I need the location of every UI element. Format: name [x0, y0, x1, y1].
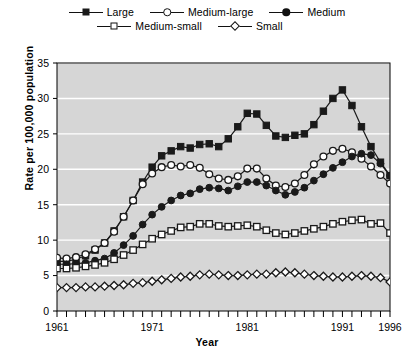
plot-background	[57, 63, 390, 311]
data-point	[282, 231, 288, 237]
data-point	[225, 223, 231, 229]
data-point	[368, 163, 375, 170]
data-point	[92, 262, 98, 268]
data-point	[291, 189, 298, 196]
data-point	[111, 249, 118, 256]
data-point	[139, 181, 146, 188]
data-point	[330, 221, 336, 227]
data-point	[120, 242, 127, 249]
data-point	[177, 163, 184, 170]
data-point	[387, 230, 393, 236]
data-point	[215, 185, 222, 192]
data-point	[254, 223, 260, 229]
data-point	[282, 191, 289, 198]
y-tick-label: 5	[43, 269, 49, 281]
data-point	[206, 221, 212, 227]
data-point	[73, 254, 80, 261]
data-point	[130, 197, 137, 204]
chart-figure: Large Medium-large Medium Medium-smal	[0, 0, 414, 359]
data-point	[273, 133, 279, 139]
data-point	[339, 145, 346, 152]
data-point	[263, 182, 270, 189]
data-point	[377, 220, 383, 226]
data-point	[358, 216, 364, 222]
x-tick-label: 1961	[45, 321, 69, 333]
data-point	[158, 164, 165, 171]
data-point	[368, 152, 375, 159]
data-point	[139, 221, 146, 228]
data-point	[206, 171, 213, 178]
data-point	[82, 263, 88, 269]
data-point	[177, 192, 184, 199]
data-point	[196, 186, 203, 193]
data-point	[301, 131, 307, 137]
data-point	[111, 256, 117, 262]
data-point	[130, 247, 136, 253]
data-point	[311, 226, 317, 232]
data-point	[339, 219, 345, 225]
data-point	[225, 187, 232, 194]
data-point	[244, 179, 251, 186]
data-point	[120, 252, 126, 258]
data-point	[187, 223, 193, 229]
data-point	[292, 132, 298, 138]
data-point	[187, 190, 194, 197]
data-point	[158, 231, 164, 237]
data-point	[244, 165, 251, 172]
data-point	[368, 221, 374, 227]
data-point	[206, 184, 213, 191]
data-point	[301, 184, 308, 191]
data-point	[206, 141, 212, 147]
data-point	[225, 177, 232, 184]
data-point	[292, 230, 298, 236]
data-point	[158, 153, 164, 159]
data-point	[101, 240, 108, 247]
data-point	[196, 164, 203, 171]
data-point	[149, 236, 155, 242]
data-point	[168, 228, 174, 234]
data-point	[197, 141, 203, 147]
data-point	[320, 171, 327, 178]
data-point	[149, 170, 156, 177]
data-point	[301, 172, 308, 179]
data-point	[387, 172, 394, 179]
data-point	[253, 165, 260, 172]
data-point	[320, 223, 326, 229]
data-point	[177, 224, 183, 230]
data-point	[254, 111, 260, 117]
data-point	[168, 197, 175, 204]
data-point	[82, 251, 89, 258]
data-point	[282, 134, 288, 140]
data-point	[130, 232, 137, 239]
data-point	[187, 145, 193, 151]
data-point	[272, 187, 279, 194]
data-point	[215, 175, 222, 182]
data-point	[339, 87, 345, 93]
data-point	[168, 148, 174, 154]
line-chart-svg: 0510152025303519611971198119911996	[0, 0, 414, 359]
data-point	[368, 143, 374, 149]
x-axis-title: Year	[0, 336, 414, 348]
data-point	[197, 221, 203, 227]
data-point	[234, 173, 241, 180]
data-point	[282, 184, 289, 191]
data-point	[244, 110, 250, 116]
data-point	[349, 102, 355, 108]
data-point	[234, 183, 241, 190]
y-tick-label: 15	[37, 199, 49, 211]
data-point	[320, 153, 327, 160]
y-tick-label: 30	[37, 92, 49, 104]
data-point	[244, 222, 250, 228]
data-point	[111, 228, 118, 235]
data-point	[225, 136, 231, 142]
data-point	[92, 246, 99, 253]
data-point	[235, 223, 241, 229]
x-tick-label: 1971	[140, 321, 164, 333]
y-axis-title: Rate per 100,000 population	[23, 3, 35, 233]
data-point	[263, 227, 269, 233]
y-tick-label: 25	[37, 128, 49, 140]
data-point	[330, 95, 336, 101]
data-point	[54, 265, 60, 271]
data-point	[377, 172, 384, 179]
data-point	[216, 223, 222, 229]
